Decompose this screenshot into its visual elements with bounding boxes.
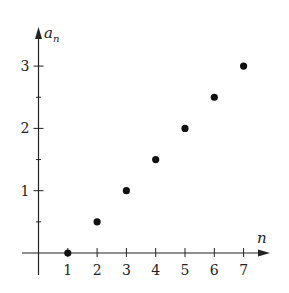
data-point xyxy=(211,94,218,101)
data-point xyxy=(94,218,101,225)
data-points xyxy=(64,63,247,257)
sequence-plot: 1234567123 n an xyxy=(0,0,289,293)
x-tick-label: 7 xyxy=(239,262,248,278)
x-axis-label: n xyxy=(257,229,267,247)
x-tick-label: 1 xyxy=(63,262,72,278)
y-axis-label-main: a xyxy=(44,24,53,42)
tick-labels: 1234567123 xyxy=(21,58,248,278)
x-tick-label: 4 xyxy=(151,262,160,278)
y-axis-label: an xyxy=(44,24,59,44)
axes xyxy=(22,27,270,275)
y-axis-label-sub: n xyxy=(53,33,59,44)
data-point xyxy=(123,187,130,194)
data-point xyxy=(152,156,159,163)
y-tick-label: 1 xyxy=(21,183,30,199)
data-point xyxy=(64,249,71,256)
y-tick-label: 3 xyxy=(21,58,30,74)
x-tick-label: 3 xyxy=(122,262,131,278)
x-tick-label: 2 xyxy=(93,262,102,278)
y-tick-label: 2 xyxy=(21,120,30,136)
x-axis-arrow-icon xyxy=(258,250,270,257)
y-axis-arrow-icon xyxy=(35,27,42,39)
x-tick-label: 6 xyxy=(210,262,219,278)
data-point xyxy=(181,125,188,132)
x-tick-label: 5 xyxy=(181,262,190,278)
data-point xyxy=(240,63,247,70)
